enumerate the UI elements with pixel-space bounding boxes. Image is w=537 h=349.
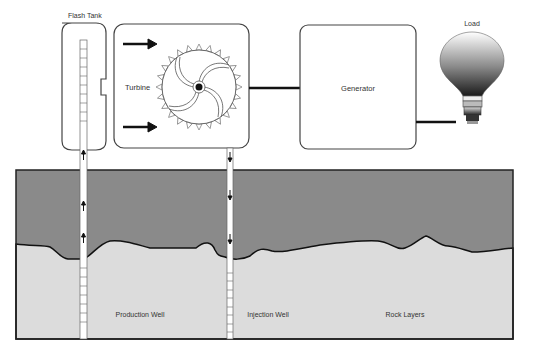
production-well-label: Production Well	[116, 311, 165, 318]
generator-box: Generator	[300, 25, 416, 149]
light-bulb-icon: Load	[440, 20, 504, 124]
geothermal-diagram: Flash Tank Turbine	[0, 0, 537, 349]
turbine-wheel-icon	[156, 44, 242, 130]
rock-layers-label: Rock Layers	[386, 311, 425, 319]
flash-tank-label: Flash Tank	[68, 12, 102, 19]
turbine-box: Turbine	[114, 24, 249, 148]
injection-well-pipe	[227, 148, 233, 339]
injection-well-label: Injection Well	[247, 311, 289, 319]
turbine-label: Turbine	[125, 83, 150, 92]
generator-label: Generator	[341, 84, 375, 93]
production-well-pipe	[80, 40, 87, 339]
load-label: Load	[464, 20, 480, 27]
